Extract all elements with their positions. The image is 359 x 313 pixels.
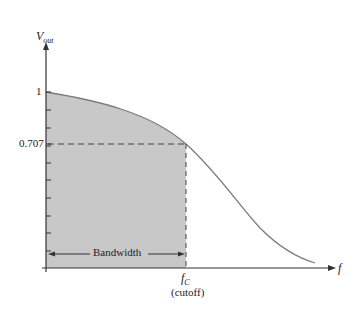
fc-label: fC [181,271,190,287]
x-axis-label: f [338,261,341,276]
y-axis-label-sub: out [43,36,53,45]
x-axis-arrow-icon [328,265,336,271]
tick-label-0707: 0.707 [19,137,44,149]
y-axis-label: Vout [36,29,54,45]
bandwidth-label: Bandwidth [93,246,141,258]
tick-label-1: 1 [36,85,42,97]
bandwidth-shaded-area [46,92,186,268]
cutoff-label: (cutoff) [171,286,204,298]
chart-canvas [0,0,359,313]
